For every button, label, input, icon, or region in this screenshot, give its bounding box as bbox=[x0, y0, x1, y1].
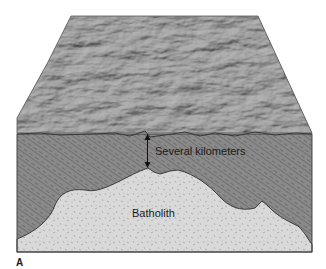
batholith-label: Batholith bbox=[132, 207, 175, 219]
batholith-block-diagram bbox=[0, 0, 326, 269]
terrain-surface bbox=[17, 16, 312, 133]
panel-label: A bbox=[16, 257, 23, 268]
depth-label: Several kilometers bbox=[155, 145, 245, 157]
